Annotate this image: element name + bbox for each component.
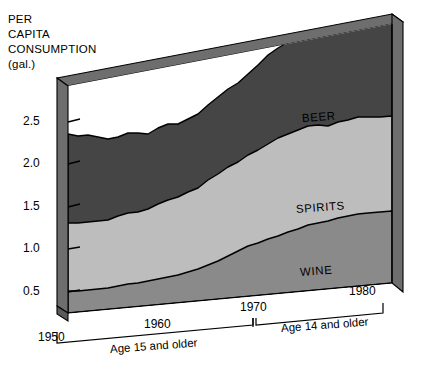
- title-line-2: CAPITA: [8, 27, 96, 42]
- y-tick-label-1-5: 1.5: [23, 199, 40, 213]
- y-tick-label-0-5: 0.5: [23, 284, 40, 298]
- chart-figure: PER CAPITA CONSUMPTION (gal.) 2.5 2.0 1.…: [0, 0, 431, 378]
- title-line-3: CONSUMPTION: [8, 42, 96, 57]
- frame-right-slab: [392, 14, 403, 292]
- x-tick-label-1970: 1970: [240, 300, 267, 314]
- x-tick-label-1960: 1960: [144, 317, 171, 331]
- y-tick-label-1-0: 1.0: [23, 241, 40, 255]
- series-label-wine: WINE: [300, 264, 333, 278]
- title-line-1: PER: [8, 12, 96, 27]
- x-tick-label-1950: 1950: [38, 330, 65, 344]
- y-axis-pillar: [57, 78, 68, 313]
- y-tick-label-2-0: 2.0: [23, 156, 40, 170]
- x-tick-label-1980: 1980: [349, 284, 376, 298]
- series-label-beer: BEER: [302, 110, 337, 124]
- chart-title: PER CAPITA CONSUMPTION (gal.): [8, 12, 96, 72]
- y-tick-label-2-5: 2.5: [23, 114, 40, 128]
- title-line-4-unit: (gal.): [8, 57, 96, 72]
